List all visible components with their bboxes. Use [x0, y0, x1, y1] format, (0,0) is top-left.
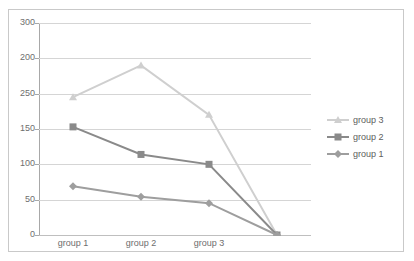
legend-label: group 2: [353, 132, 384, 142]
x-axis-tick-label: group 2: [126, 238, 157, 248]
series-layer: [39, 23, 311, 236]
series-group-3: [69, 61, 281, 236]
legend-label: group 1: [353, 149, 384, 159]
data-point-marker: [334, 150, 342, 158]
y-axis-tick-mark: [35, 200, 39, 201]
data-point-marker: [138, 151, 145, 158]
legend-key-icon: [327, 148, 349, 159]
y-axis-tick-mark: [35, 94, 39, 95]
legend-key-icon: [327, 114, 349, 125]
y-axis-tick-label: 50: [9, 195, 35, 204]
legend-item-group-3[interactable]: group 3: [327, 111, 401, 128]
y-axis-tick-labels: 300200250150100500: [9, 23, 35, 236]
y-axis-tick-mark: [35, 23, 39, 24]
y-axis-tick-label: 250: [9, 89, 35, 98]
legend-marker-square-icon: [332, 131, 344, 143]
series-group-1: [69, 182, 281, 236]
y-axis-tick-label: 100: [9, 159, 35, 168]
y-axis-tick-label: 200: [9, 53, 35, 62]
y-axis-tick-label: 300: [9, 18, 35, 27]
chart-container: 300200250150100500 group 1group 2group 3…: [8, 9, 404, 252]
y-axis-tick-mark: [35, 58, 39, 59]
legend-marker-triangle-icon: [332, 114, 344, 126]
legend-marker-diamond-icon: [332, 148, 344, 160]
data-point-marker: [206, 161, 213, 168]
y-axis-tick-mark: [35, 164, 39, 165]
y-axis-tick-label: 150: [9, 124, 35, 133]
x-axis-tick-label: group 3: [194, 238, 225, 248]
legend-key-icon: [327, 131, 349, 142]
y-axis-tick-mark: [35, 129, 39, 130]
x-axis-tick-label: group 1: [58, 238, 89, 248]
legend-item-group-2[interactable]: group 2: [327, 128, 401, 145]
series-group-2: [70, 123, 281, 236]
chart-legend: group 3group 2group 1: [327, 111, 401, 162]
series-line: [73, 186, 277, 235]
y-axis-tick-label: 0: [9, 230, 35, 239]
data-point-marker: [137, 193, 145, 201]
legend-label: group 3: [353, 115, 384, 125]
legend-item-group-1[interactable]: group 1: [327, 145, 401, 162]
data-point-marker: [137, 61, 145, 68]
y-axis-tick-mark: [35, 235, 39, 236]
data-point-marker: [70, 123, 77, 130]
data-point-marker: [334, 116, 342, 123]
data-point-marker: [335, 134, 342, 141]
series-line: [73, 65, 277, 235]
data-point-marker: [69, 182, 77, 190]
data-point-marker: [205, 199, 213, 207]
